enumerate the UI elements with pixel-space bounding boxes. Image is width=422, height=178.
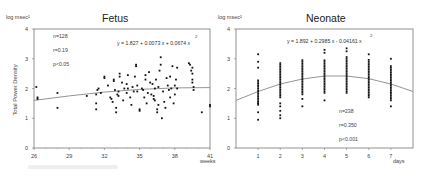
x-axis-label: days xyxy=(393,158,405,164)
y-tick-label: 3 xyxy=(25,56,28,62)
x-tick-label: 1 xyxy=(257,153,260,159)
y-axis-label: Total Power Density xyxy=(12,64,18,115)
y-tick-label: 4 xyxy=(25,26,28,32)
equation-exponent: 2 xyxy=(370,33,373,38)
x-tick-label: 2 xyxy=(279,153,282,159)
x-tick-label: 32 xyxy=(101,153,107,159)
x-tick-label: 3 xyxy=(301,153,304,159)
panel-title: Neonate xyxy=(306,12,346,24)
x-tick-label: 6 xyxy=(367,153,370,159)
y-tick-label: 4 xyxy=(227,26,230,32)
y-tick-label: 0 xyxy=(227,145,230,151)
x-tick-label: 4 xyxy=(323,153,326,159)
x-tick-label: 38 xyxy=(172,153,178,159)
stat-r: r=0.350 xyxy=(339,122,357,128)
x-tick-label: 35 xyxy=(137,153,143,159)
y-ticks: 01234 xyxy=(227,26,236,151)
y-tick-label: 1 xyxy=(227,115,230,121)
fetus-panel: log msec² Fetus Total Power Density 0123… xyxy=(6,12,216,164)
y-ticks: 01234 xyxy=(25,26,34,151)
equation-exponent: 2 xyxy=(195,34,198,39)
y-tick-label: 1 xyxy=(25,115,28,121)
y-unit-label: log msec² xyxy=(6,14,30,20)
x-tick-label: 29 xyxy=(66,153,72,159)
x-ticks: 1234567 xyxy=(257,148,393,159)
x-tick-label: 7 xyxy=(389,153,392,159)
stat-p: p<0.05 xyxy=(53,61,69,67)
x-tick-label: 26 xyxy=(31,153,37,159)
x-ticks: 262932353841 xyxy=(31,148,213,159)
faint-caption-line xyxy=(28,165,118,169)
neonate-panel: log msec² Neonate 01234 1234567 days y =… xyxy=(218,12,413,164)
stat-n: n=128 xyxy=(53,33,68,39)
data-points xyxy=(257,47,392,120)
y-tick-label: 3 xyxy=(227,56,230,62)
stat-p: p<0.001 xyxy=(339,136,358,142)
regression-equation: y = 1.892 + 0.2985 x - 0.04161 x xyxy=(287,38,362,44)
y-unit-label: log msec² xyxy=(218,14,242,20)
panel-title: Fetus xyxy=(102,12,128,24)
x-axis-label: weeks xyxy=(199,158,216,164)
y-tick-label: 0 xyxy=(25,145,28,151)
x-tick-label: 5 xyxy=(345,153,348,159)
regression-equation: y = 1.827 + 0.0073 x + 0.0674 x xyxy=(117,40,191,46)
y-tick-label: 2 xyxy=(227,86,230,92)
y-tick-label: 2 xyxy=(25,86,28,92)
figure-svg: log msec² Fetus Total Power Density 0123… xyxy=(0,0,422,178)
stat-r: r=0.19 xyxy=(53,47,68,53)
stat-n: n=238 xyxy=(339,108,354,114)
regression-curve xyxy=(34,88,210,101)
figure: log msec² Fetus Total Power Density 0123… xyxy=(0,0,422,178)
